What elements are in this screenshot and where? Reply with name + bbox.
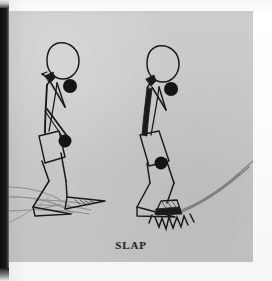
left-figure-pole-tip [42,72,47,74]
book-gutter-shadow-bottom [0,268,9,281]
right-figure-hand-wedge [146,75,156,86]
right-figure-torso-fill [142,88,152,136]
left-figure-hand-wedge [45,72,55,83]
right-figure [137,46,182,217]
illustration-caption: SLAP [9,239,253,251]
illustration-panel: SLAP [9,11,253,262]
right-figure-knee-ball [155,157,168,170]
left-figure-rear-thigh [42,161,49,181]
left-figure-front-shank [66,181,67,197]
right-figure-shoulder-ball [164,82,178,96]
left-figure-hip-ball [59,135,72,148]
left-figure-rear-arm2 [45,111,64,139]
right-figure-front-boot-sole [156,207,182,215]
right-figure-rear-shank [137,183,150,207]
right-figure-torso-front [151,87,159,135]
right-figure-boot-hatch [162,201,176,208]
illustration-page: SLAP [0,0,272,281]
book-gutter-shadow [0,8,9,273]
motion-lines-right [175,161,253,214]
left-figure [33,43,105,216]
stick-figure-drawing [9,11,253,262]
left-figure-shoulder-ball [63,79,77,93]
